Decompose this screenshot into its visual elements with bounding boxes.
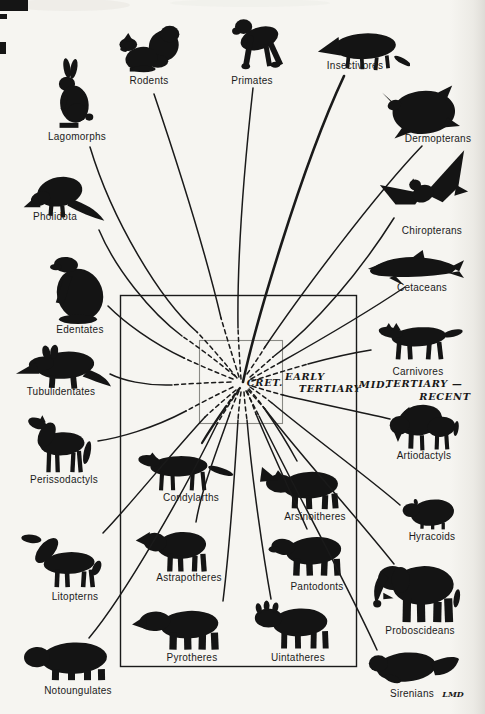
- dermopterans-label: Dermopterans: [405, 133, 471, 144]
- pantodonts-label: Pantodonts: [290, 581, 343, 592]
- era-label-mid_line1: MID.: [358, 379, 389, 390]
- scan-artifact-mark: [0, 14, 7, 19]
- proboscideans-label: Proboscideans: [385, 625, 454, 636]
- era-label-early_line2: TERTIARY: [299, 383, 362, 394]
- radiation-diagram-canvas: RodentsPrimatesInsectivoresLagomorphsDer…: [0, 0, 485, 714]
- perissodactyls-label: Perissodactyls: [30, 474, 98, 485]
- astrapotheres-label: Astrapotheres: [156, 572, 222, 583]
- sirenians-label: Sirenians: [390, 688, 434, 699]
- edentates-label: Edentates: [56, 324, 103, 335]
- tubulidentates-label: Tubulidentates: [27, 386, 96, 397]
- artiodactyls-label: Artiodactyls: [397, 450, 452, 461]
- era-label-cret: CRET.: [247, 377, 283, 388]
- era-label-mid_line2: TERTIARY —: [385, 378, 462, 389]
- hyracoids-label: Hyracoids: [409, 531, 456, 542]
- era-label-mid_line3: RECENT: [418, 391, 470, 402]
- arsinoitheres-label: Arsinoitheres: [284, 511, 346, 522]
- artist-signature: LMD: [441, 689, 463, 699]
- condylarths-label: Condylarths: [163, 492, 219, 503]
- lagomorphs-label: Lagomorphs: [48, 131, 106, 142]
- scan-artifact-mark: [0, 42, 6, 54]
- rodents-label: Rodents: [130, 75, 169, 86]
- pyrotheres-label: Pyrotheres: [167, 652, 218, 663]
- uintatheres-label: Uintatheres: [271, 652, 325, 663]
- pholidota-label: Pholidota: [33, 211, 77, 222]
- primates-label: Primates: [231, 75, 272, 86]
- notoungulates-label: Notoungulates: [44, 685, 112, 696]
- litopterns-label: Litopterns: [52, 591, 98, 602]
- scan-artifact-mark: [0, 0, 28, 11]
- chiropterans-label: Chiropterans: [402, 225, 462, 236]
- era-label-early_line1: EARLY: [284, 371, 325, 382]
- mammal-radiation-figure: RodentsPrimatesInsectivoresLagomorphsDer…: [0, 0, 485, 714]
- insectivores-label: Insectivores: [327, 60, 383, 71]
- cetaceans-label: Cetaceans: [397, 282, 447, 293]
- carnivores-label: Carnivores: [393, 366, 444, 377]
